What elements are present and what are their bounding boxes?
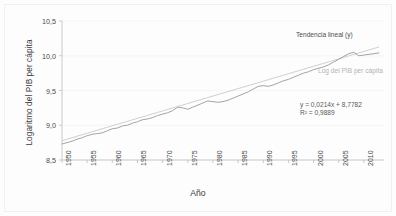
- y-tick-label: 10,0: [26, 52, 56, 61]
- y-tick-label: 8,5: [26, 156, 56, 165]
- x-tick-label: 1975: [191, 150, 198, 166]
- x-tick-label: 1955: [90, 150, 97, 166]
- x-tick-label: 1950: [65, 150, 72, 166]
- x-axis-title: Año: [0, 188, 396, 198]
- x-tick-label: 1980: [216, 150, 223, 166]
- x-tick-label: 2000: [317, 150, 324, 166]
- x-tick-label: 1970: [166, 150, 173, 166]
- y-tick-label: 10,5: [26, 17, 56, 26]
- x-tick-label: 1960: [115, 150, 122, 166]
- x-tick-label: 1965: [140, 150, 147, 166]
- x-tick-label: 1990: [266, 150, 273, 166]
- trend-line-label: Tendencia lineal (y): [296, 31, 353, 38]
- r-squared-value: R² = 0,9889: [300, 109, 335, 116]
- trend-line-path: [62, 47, 379, 141]
- gridlines: [62, 21, 384, 160]
- x-tick-label: 2010: [367, 150, 374, 166]
- series-label: Log del PIB per cápita: [318, 67, 383, 74]
- x-tick-label: 2005: [342, 150, 349, 166]
- y-tick-label: 9,5: [26, 87, 56, 96]
- x-tick-label: 1995: [291, 150, 298, 166]
- chart-figure: Logaritmo del PIB per cápita Año 10,510,…: [0, 0, 396, 216]
- regression-equation: y = 0,0214x + 8,7782: [300, 101, 362, 108]
- y-tick-label: 9,0: [26, 121, 56, 130]
- tick-marks: [59, 21, 364, 163]
- x-tick-label: 1985: [241, 150, 248, 166]
